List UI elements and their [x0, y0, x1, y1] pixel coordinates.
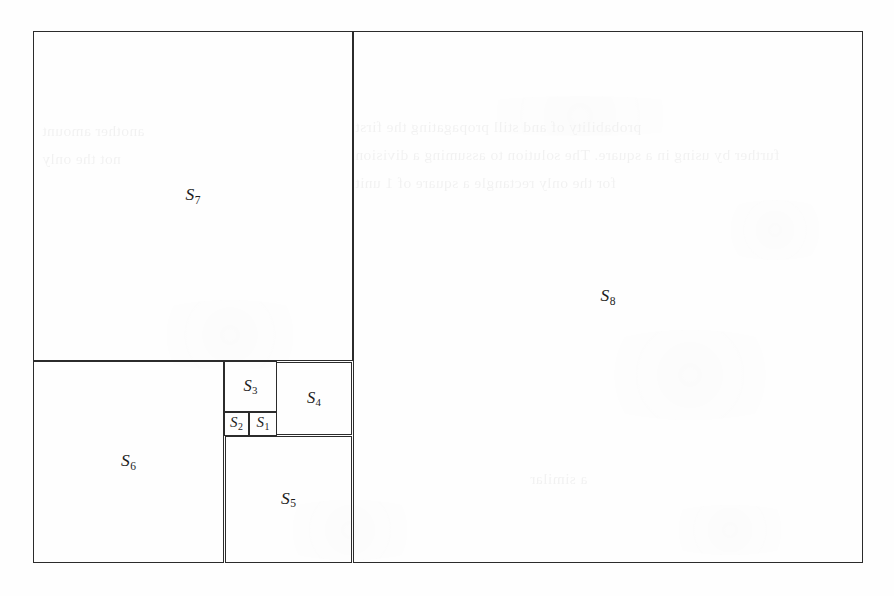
square-s3: S3 [224, 361, 277, 412]
square-label-s4: S4 [307, 389, 321, 407]
square-s1: S1 [249, 412, 277, 436]
square-s4: S4 [276, 362, 352, 435]
square-s6: S6 [33, 361, 224, 563]
square-label-s7: S7 [186, 186, 201, 206]
square-label-s8: S8 [601, 287, 616, 307]
square-label-index: 2 [238, 422, 243, 433]
square-label-letter: S [257, 414, 265, 430]
square-s7: S7 [33, 31, 353, 361]
square-label-index: 8 [610, 295, 616, 307]
square-label-letter: S [230, 414, 238, 430]
square-label-s2: S2 [230, 415, 243, 432]
square-label-s3: S3 [243, 377, 257, 395]
figure-canvas: probability of and still propagating the… [0, 0, 894, 596]
square-label-s5: S5 [281, 489, 296, 509]
square-label-index: 6 [130, 460, 136, 472]
square-label-letter: S [243, 375, 251, 394]
square-label-letter: S [307, 387, 315, 406]
square-label-index: 5 [290, 497, 296, 509]
square-label-index: 3 [252, 384, 257, 396]
square-label-letter: S [186, 184, 195, 204]
square-s5: S5 [225, 436, 352, 563]
square-label-letter: S [281, 487, 290, 507]
square-label-index: 1 [264, 422, 269, 433]
square-label-s6: S6 [121, 452, 136, 472]
square-label-letter: S [121, 450, 130, 470]
square-label-index: 7 [195, 194, 201, 206]
square-label-letter: S [601, 285, 610, 305]
square-label-index: 4 [316, 396, 321, 408]
square-s2: S2 [224, 412, 249, 436]
square-label-s1: S1 [257, 415, 270, 432]
square-s8: S8 [353, 31, 863, 563]
